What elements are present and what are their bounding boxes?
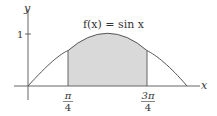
y-tick-label: 1 — [17, 29, 23, 40]
tick-3pi-over-4-den: 4 — [145, 102, 151, 113]
function-label: f(x) = sin x — [83, 18, 145, 31]
tick-pi-over-4-den: 4 — [65, 102, 71, 113]
tick-3pi-over-4-num: 3π — [142, 90, 155, 101]
y-axis-label: y — [23, 2, 31, 15]
tick-pi-over-4-num: π — [64, 90, 72, 101]
sine-area-diagram: y x 1 f(x) = sin x π 4 3π 4 — [0, 0, 217, 116]
x-axis-label: x — [201, 79, 208, 92]
